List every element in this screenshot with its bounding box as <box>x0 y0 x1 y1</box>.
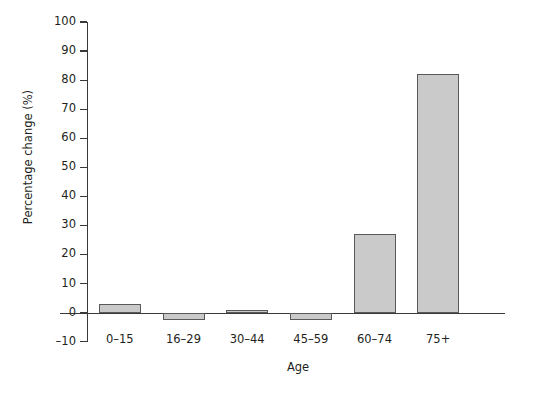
y-tick-50 <box>80 167 87 168</box>
y-tick-label: 60 <box>30 132 76 144</box>
y-tick-60 <box>80 138 87 139</box>
bar-16–29 <box>163 313 205 320</box>
y-axis-title: Percentage change (%) <box>21 57 35 257</box>
y-tick-label: 90 <box>30 45 76 57</box>
y-tick-label: 70 <box>30 103 76 115</box>
y-tick-label: 20 <box>30 248 76 260</box>
y-tick-label: 0 <box>30 307 76 319</box>
y-tick-label: 100 <box>30 16 76 28</box>
y-tick-label: –10 <box>30 336 76 348</box>
bar-30–44 <box>226 310 268 313</box>
y-tick-label-wrap-90: 90 <box>22 45 76 57</box>
y-tick-label: 80 <box>30 74 76 86</box>
y-tick-10 <box>80 283 87 284</box>
y-tick-70 <box>80 109 87 110</box>
y-tick-label: 30 <box>30 219 76 231</box>
bar-75+ <box>417 74 459 312</box>
bar-60–74 <box>354 234 396 312</box>
bar-0–15 <box>99 304 141 313</box>
y-tick-label-wrap--10: –10 <box>22 336 76 348</box>
bar-45–59 <box>290 313 332 320</box>
chart-page: 1009080706050403020100–10 0–1516–2930–44… <box>0 0 535 400</box>
y-tick-30 <box>80 225 87 226</box>
y-tick-label-wrap-10: 10 <box>22 278 76 290</box>
y-tick-label-wrap-100: 100 <box>22 16 76 28</box>
x-tick-label-75+: 75+ <box>398 332 478 346</box>
y-tick-40 <box>80 196 87 197</box>
y-tick-label: 50 <box>30 161 76 173</box>
y-axis-line <box>87 22 88 342</box>
y-tick-label: 40 <box>30 190 76 202</box>
y-tick-90 <box>80 50 87 51</box>
y-tick-label: 10 <box>30 278 76 290</box>
x-axis-line <box>60 313 505 314</box>
y-tick-20 <box>80 254 87 255</box>
bar-chart-plot: 1009080706050403020100–10 0–1516–2930–44… <box>0 0 535 400</box>
y-tick-0 <box>80 312 87 313</box>
y-tick-80 <box>80 80 87 81</box>
x-axis-title: Age <box>88 360 508 374</box>
y-tick-label-wrap-0: 0 <box>22 307 76 319</box>
y-tick-100 <box>80 21 87 22</box>
